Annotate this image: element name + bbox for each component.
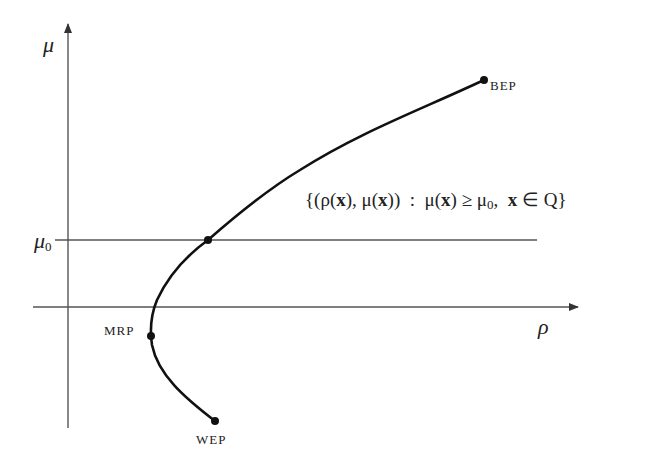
feasible-set-notation: {(ρ(x), μ(x)) : μ(x) ≥ μ0, x ∈ Q}	[305, 188, 567, 213]
set-mid2: )) : μ(	[388, 189, 441, 210]
set-mid3: ) ≥ μ	[451, 189, 487, 210]
set-mid1: ), μ(	[346, 189, 378, 210]
mu0-subscript: 0	[45, 239, 52, 254]
wep-label: WEP	[196, 432, 226, 448]
bep-label: BEP	[490, 78, 517, 94]
set-close: ∈ Q}	[517, 189, 566, 210]
mu0-label: μ0	[34, 228, 52, 255]
threshold-intersection-point	[204, 236, 212, 244]
set-x2: x	[378, 189, 388, 210]
set-open: {(ρ(	[305, 189, 336, 210]
set-x4: x	[508, 189, 518, 210]
frontier-curve	[151, 80, 484, 421]
x-axis-label: ρ	[538, 314, 549, 340]
frontier-diagram	[0, 0, 651, 471]
bep-point	[480, 76, 488, 84]
mrp-label: MRP	[104, 323, 134, 339]
mu0-symbol: μ	[34, 228, 45, 253]
set-x3: x	[441, 189, 451, 210]
y-axis-label: μ	[43, 32, 54, 58]
set-mid4: ,	[494, 189, 508, 210]
mrp-point	[147, 332, 155, 340]
wep-point	[211, 417, 219, 425]
set-x1: x	[336, 189, 346, 210]
